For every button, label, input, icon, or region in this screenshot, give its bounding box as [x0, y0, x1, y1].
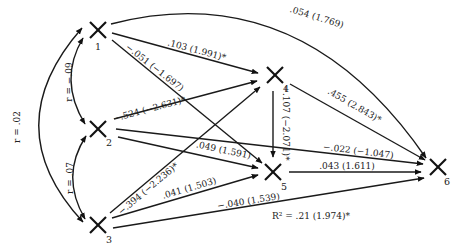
path-label-3-6: −.040 (1.539) — [217, 191, 281, 211]
node-label: 6 — [444, 176, 450, 187]
corr-label-1-3: r = .02 — [12, 111, 22, 143]
corr-label-1-2: r = −.09 — [64, 62, 74, 102]
path-label-1-6: .054 (1.769) — [289, 4, 345, 30]
node-1: 1 — [90, 22, 106, 52]
node-5: 5 — [265, 164, 287, 192]
node-3: 3 — [90, 217, 112, 245]
node-2: 2 — [90, 121, 112, 148]
path-diagram: 1 2 3 4 5 6 r = −.09 r = .07 r = .02 .05… — [0, 0, 460, 247]
node-6: 6 — [430, 159, 450, 187]
path-label-2-6: −.022 (−1.047) — [323, 142, 394, 161]
node-label: 5 — [281, 181, 287, 192]
r-squared-label: R² = .21 (1.974)* — [272, 211, 351, 221]
path-label-2-4: −.524 (−2.631)* — [112, 94, 188, 123]
path-1-5 — [112, 40, 262, 163]
node-label: 3 — [106, 234, 112, 245]
path-label-3-5: .041 (1.503) — [161, 176, 217, 201]
path-label-4-6: .455 (2.843)* — [326, 86, 384, 125]
path-label-2-5: .049 (1.591) — [195, 139, 252, 160]
correlation-arcs — [39, 28, 86, 222]
node-label: 1 — [95, 41, 101, 52]
corr-label-2-3: r = .07 — [65, 162, 75, 194]
path-label-5-6: .043 (1.611) — [319, 161, 375, 171]
node-label: 2 — [106, 137, 112, 148]
path-label-4-5: −.107 (−2.071)* — [281, 85, 291, 161]
corr-arc-1-3 — [39, 28, 83, 222]
path-1-6 — [111, 14, 426, 158]
